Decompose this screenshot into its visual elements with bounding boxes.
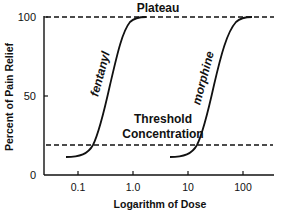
threshold-label-line2: Concentration xyxy=(122,127,203,141)
x-axis-title: Logarithm of Dose xyxy=(114,198,207,210)
y-tick-label-0: 0 xyxy=(30,169,36,181)
y-tick-label-50: 50 xyxy=(24,90,36,102)
morphine-label: morphine xyxy=(189,49,217,106)
dose-response-chart: 100 50 0 0.1 1.0 10 100 Logarithm of Dos… xyxy=(0,0,282,213)
plateau-label: Plateau xyxy=(137,1,180,15)
threshold-label-line1: Threshold xyxy=(134,112,192,126)
x-tick-label-10: 10 xyxy=(182,181,194,193)
y-axis-title: Percent of Pain Relief xyxy=(3,43,15,151)
x-tick-label-1.0: 1.0 xyxy=(126,181,141,193)
x-tick-label-100: 100 xyxy=(234,181,252,193)
x-tick-label-0.1: 0.1 xyxy=(71,181,86,193)
y-tick-label-100: 100 xyxy=(18,11,36,23)
